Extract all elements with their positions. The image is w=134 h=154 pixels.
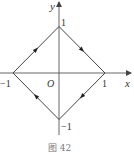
- diamond-diagram: y x O 1 −1 1 −1 图 42: [0, 0, 134, 154]
- tick-label-y-pos: 1: [61, 17, 66, 28]
- figure-caption: 图 42: [48, 143, 71, 153]
- tick-label-y-neg: −1: [61, 121, 72, 132]
- tick-label-x-pos: 1: [102, 78, 107, 89]
- y-axis-label: y: [49, 0, 55, 12]
- origin-label: O: [47, 78, 54, 89]
- tick-label-x-neg: −1: [0, 78, 11, 89]
- x-axis-label: x: [124, 77, 130, 89]
